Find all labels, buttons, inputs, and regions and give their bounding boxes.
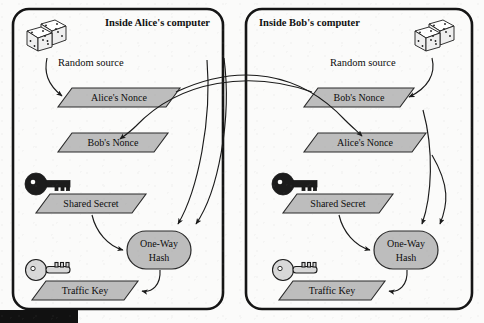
diagram-canvas: Inside Alice's computer (0, 0, 484, 323)
node-label-bob-bob-nonce: Bob's Nonce (334, 92, 386, 103)
node-label-bob-traffic-key: Traffic Key (309, 285, 355, 296)
flow-bob-hash-to-traffic-key (389, 270, 407, 291)
flow-bob-alicenonce-to-hash (432, 155, 446, 224)
node-alice-bob-nonce: Bob's Nonce (58, 133, 168, 152)
panel-alice: Inside Alice's computer (13, 9, 226, 309)
bottom-black-bar (0, 310, 78, 323)
node-label-bob-hash-line2: Hash (396, 252, 417, 263)
dice-icon (415, 20, 454, 51)
node-label-alice-shared-secret: Shared Secret (63, 198, 118, 209)
light-key-icon (273, 260, 318, 281)
node-label-alice-traffic-key: Traffic Key (62, 285, 108, 296)
light-key-icon (26, 260, 71, 281)
node-label-alice-alice-nonce: Alice's Nonce (91, 92, 148, 103)
flow-alice-hash-to-traffic-key (142, 270, 160, 291)
dark-key-icon (25, 173, 70, 195)
dark-key-icon (272, 173, 317, 195)
node-alice-one-way-hash: One-Way Hash (127, 231, 191, 269)
node-bob-one-way-hash: One-Way Hash (374, 231, 438, 269)
panel-alice-title: Inside Alice's computer (105, 17, 210, 28)
bob-random-source-label: Random source (330, 57, 396, 68)
node-label-bob-shared-secret: Shared Secret (310, 198, 365, 209)
key-exchange-diagram: Inside Alice's computer (0, 0, 484, 323)
node-label-alice-hash-line2: Hash (149, 252, 170, 263)
node-label-alice-bob-nonce: Bob's Nonce (88, 137, 140, 148)
flow-bob-nonce-to-hash (422, 110, 430, 224)
flow-bob-random-to-nonce (409, 58, 433, 97)
flow-bob-secret-to-hash (339, 215, 370, 250)
dice-icon (27, 20, 66, 51)
node-bob-traffic-key: Traffic Key (279, 281, 385, 300)
node-bob-alice-nonce: Alice's Nonce (304, 133, 426, 152)
alice-random-source-label: Random source (58, 57, 124, 68)
node-label-alice-hash-line1: One-Way (140, 238, 178, 249)
node-alice-traffic-key: Traffic Key (32, 281, 138, 300)
node-alice-shared-secret: Shared Secret (36, 194, 146, 213)
node-label-bob-alice-nonce: Alice's Nonce (337, 137, 394, 148)
panel-bob: Inside Bob's computer (246, 9, 472, 309)
flow-alice-secret-to-hash (92, 215, 123, 250)
node-bob-shared-secret: Shared Secret (283, 194, 393, 213)
node-bob-bob-nonce: Bob's Nonce (304, 88, 414, 107)
panel-bob-title: Inside Bob's computer (259, 17, 360, 28)
node-label-bob-hash-line1: One-Way (387, 238, 425, 249)
